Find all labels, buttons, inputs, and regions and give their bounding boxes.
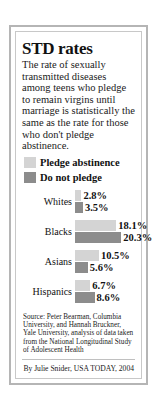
category-label: Asians <box>22 256 75 267</box>
bar-pair: 10.5% 5.6% <box>75 249 135 274</box>
bar-no-pledge <box>75 262 88 273</box>
category-label: Hispanics <box>22 286 75 297</box>
bar-value-label: 18.1% <box>116 220 147 231</box>
bar-pair: 2.8% 3.5% <box>75 189 135 214</box>
bar-row-no-pledge: 5.6% <box>75 262 135 273</box>
bar-chart: Whites 2.8% 3.5% <box>22 187 135 307</box>
graphic-frame: STD rates The rate of sexually transmitt… <box>9 25 148 385</box>
legend-swatch-icon <box>24 157 36 168</box>
legend-item-pledge: Pledge abstinence <box>24 156 135 169</box>
category-label: Blacks <box>22 226 75 237</box>
bar-pledge <box>75 280 90 291</box>
bar-row-no-pledge: 3.5% <box>75 202 135 213</box>
bar-row-no-pledge: 8.6% <box>75 292 135 303</box>
chart-group-whites: Whites 2.8% 3.5% <box>22 187 135 217</box>
bar-pledge <box>75 250 99 261</box>
bar-pair: 6.7% 8.6% <box>75 279 135 304</box>
bar-pair: 18.1% 20.3% <box>75 219 152 244</box>
byline-divider <box>22 359 135 360</box>
byline: By Julie Snider, USA TODAY, 2004 <box>22 364 135 373</box>
bar-value-label: 20.3% <box>121 232 152 243</box>
category-label: Whites <box>22 196 75 207</box>
bar-value-label: 10.5% <box>99 250 130 261</box>
legend-item-no-pledge: Do not pledge <box>24 171 135 184</box>
legend-item-label: Pledge abstinence <box>40 157 120 168</box>
graphic-inner-border: STD rates The rate of sexually transmitt… <box>15 31 142 379</box>
chart-group-hispanics: Hispanics 6.7% 8.6% <box>22 277 135 307</box>
bar-value-label: 6.7% <box>90 280 116 291</box>
page-title: STD rates <box>22 39 135 58</box>
chart-group-blacks: Blacks 18.1% 20.3% <box>22 217 135 247</box>
infographic-page: STD rates The rate of sexually transmitt… <box>0 0 157 400</box>
bar-value-label: 2.8% <box>81 190 107 201</box>
bar-no-pledge <box>75 232 121 243</box>
bar-value-label: 8.6% <box>95 292 121 303</box>
chart-group-asians: Asians 10.5% 5.6% <box>22 247 135 277</box>
bar-row-no-pledge: 20.3% <box>75 232 152 243</box>
graphic-content: STD rates The rate of sexually transmitt… <box>22 36 135 374</box>
chart-legend: Pledge abstinence Do not pledge <box>24 156 135 184</box>
bar-row-pledge: 2.8% <box>75 190 135 201</box>
bar-no-pledge <box>75 202 83 213</box>
bar-row-pledge: 6.7% <box>75 280 135 291</box>
legend-item-label: Do not pledge <box>40 172 102 183</box>
legend-swatch-icon <box>24 172 36 183</box>
bar-value-label: 3.5% <box>83 202 109 213</box>
bar-row-pledge: 10.5% <box>75 250 135 261</box>
source-note: Source: Peter Bearman, Columbia Universi… <box>23 313 135 354</box>
summary-text: The rate of sexually transmitted disease… <box>22 59 135 152</box>
bar-no-pledge <box>75 292 95 303</box>
bar-row-pledge: 18.1% <box>75 220 152 231</box>
bar-value-label: 5.6% <box>88 262 114 273</box>
bar-pledge <box>75 220 116 231</box>
